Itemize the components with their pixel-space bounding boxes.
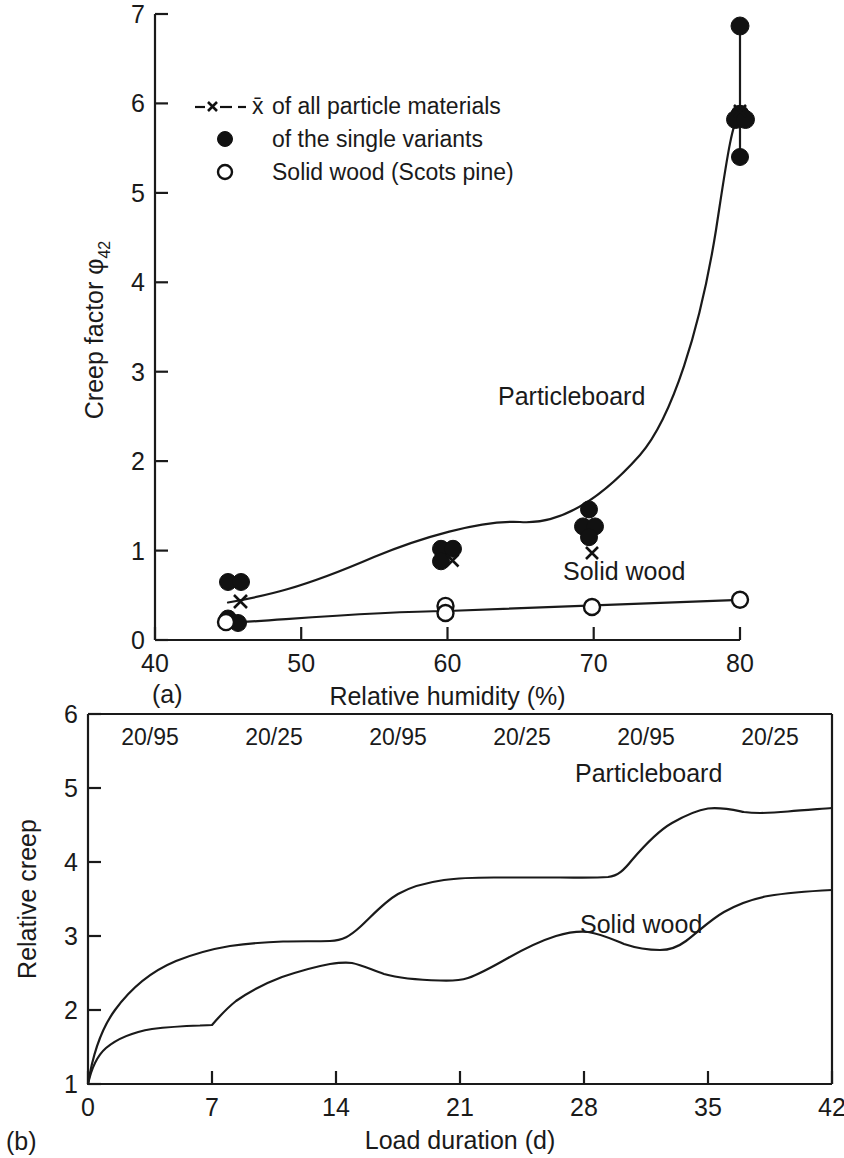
- panel-a-annotation-particleboard: Particleboard: [498, 382, 645, 410]
- cycle-label-5: 20/95: [617, 724, 675, 750]
- panel-b-top-axis-labels: 20/95 20/25 20/95 20/25 20/95 20/25: [121, 724, 799, 750]
- panel-b-svg: 1 2 3 4 5 6 0 7 14 21: [0, 700, 844, 1158]
- legend-label-mean-all-particle-materials: of all particle materials: [272, 93, 501, 119]
- panel-b-x-ticks: [88, 1071, 832, 1084]
- panel-b-curve-solid-wood: [88, 890, 832, 1084]
- cycle-label-6: 20/25: [741, 724, 799, 750]
- panel-a-annotation-solid-wood: Solid wood: [563, 557, 685, 585]
- legend-label-solid-wood: Solid wood (Scots pine): [272, 159, 514, 185]
- panel-a-ytick-3: 3: [131, 358, 145, 386]
- panel-a-curve-particleboard: [228, 114, 740, 603]
- cycle-label-1: 20/95: [121, 724, 179, 750]
- panel-a-xtick-60: 60: [434, 649, 462, 677]
- panel-b-ytick-5: 5: [64, 774, 78, 802]
- panel-b-xtick-35: 35: [694, 1093, 722, 1121]
- chart-panel-b: 1 2 3 4 5 6 0 7 14 21: [0, 700, 844, 1158]
- panel-b-x-tick-labels: 0 7 14 21 28 35 42: [81, 1093, 844, 1121]
- cycle-label-4: 20/25: [493, 724, 551, 750]
- cycle-label-2: 20/25: [245, 724, 303, 750]
- legend-marker-solid-wood: [218, 165, 232, 179]
- panel-b-curve-particleboard: [88, 808, 832, 1084]
- chart-panel-a: 0 1 2 3 4 5 6 7 40 50 60 70: [0, 0, 844, 700]
- panel-b-x-axis-title: Load duration (d): [365, 1126, 555, 1154]
- panel-a-y-axis-title-text: Creep factor φ: [80, 259, 108, 420]
- panel-a-ytick-1: 1: [131, 537, 145, 565]
- panel-a-y-axis-title: Creep factor φ42: [80, 241, 113, 420]
- panel-b-xtick-7: 7: [205, 1093, 219, 1121]
- panel-a-points-solid-wood: [218, 592, 748, 630]
- panel-a-y-axis-subscript: 42: [96, 241, 113, 259]
- panel-b-ytick-6: 6: [64, 700, 78, 728]
- svg-text:Creep factor φ42: Creep factor φ42: [80, 241, 113, 420]
- panel-a-y-ticks: [155, 14, 168, 640]
- cycle-label-3: 20/95: [369, 724, 427, 750]
- panel-b-xtick-14: 14: [322, 1093, 350, 1121]
- panel-a-ytick-5: 5: [131, 179, 145, 207]
- legend-marker-single-variants: [218, 132, 233, 147]
- panel-b-ytick-4: 4: [64, 848, 78, 876]
- legend-xbar-symbol: x̄: [252, 93, 264, 119]
- panel-a-xtick-80: 80: [726, 649, 754, 677]
- panel-a-y-tick-labels: 0 1 2 3 4 5 6 7: [131, 0, 145, 654]
- panel-a-curve-solid-wood: [228, 600, 740, 623]
- panel-b-ytick-3: 3: [64, 922, 78, 950]
- panel-a-legend: x̄ of all particle materials of the sing…: [195, 93, 514, 185]
- panel-a-ytick-7: 7: [131, 0, 145, 28]
- panel-a-ytick-2: 2: [131, 447, 145, 475]
- panel-b-y-ticks: [88, 714, 101, 1084]
- panel-b-annotation-particleboard: Particleboard: [575, 759, 722, 787]
- legend-marker-mean-all-particle-materials: x̄: [195, 93, 264, 119]
- panel-b-y-tick-labels: 1 2 3 4 5 6: [64, 700, 78, 1098]
- legend-label-single-variants: of the single variants: [272, 126, 483, 152]
- panel-a-x-tick-labels: 40 50 60 70 80: [141, 649, 754, 677]
- panel-b-y-axis-title-text: Relative creep: [13, 819, 41, 979]
- panel-b-letter: (b): [6, 1127, 37, 1155]
- panel-b-ytick-2: 2: [64, 996, 78, 1024]
- panel-a-xtick-40: 40: [141, 649, 169, 677]
- panel-a-ytick-6: 6: [131, 89, 145, 117]
- panel-b-xtick-0: 0: [81, 1093, 95, 1121]
- figure-creep-charts: 0 1 2 3 4 5 6 7 40 50 60 70: [0, 0, 844, 1158]
- panel-b-xtick-42: 42: [818, 1093, 844, 1121]
- panel-a-xtick-70: 70: [580, 649, 608, 677]
- panel-a-svg: 0 1 2 3 4 5 6 7 40 50 60 70: [0, 0, 844, 700]
- panel-b-ytick-1: 1: [64, 1070, 78, 1098]
- panel-b-y-axis-title: Relative creep: [13, 819, 41, 979]
- panel-b-xtick-28: 28: [570, 1093, 598, 1121]
- panel-a-xtick-50: 50: [287, 649, 315, 677]
- panel-b-annotation-solid-wood: Solid wood: [580, 910, 702, 938]
- panel-a-ytick-4: 4: [131, 268, 145, 296]
- panel-b-xtick-21: 21: [446, 1093, 474, 1121]
